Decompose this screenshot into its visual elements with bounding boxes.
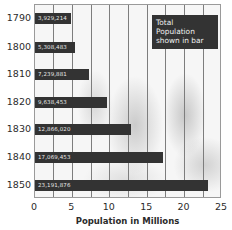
y-tick-label: 1790 [0,12,31,23]
x-tick-label: 5 [68,201,74,212]
gridline [147,5,148,197]
legend-line: Total [156,18,214,27]
bar-value-label: 9,638,453 [35,99,67,105]
legend-line: Population [156,27,214,36]
x-axis-label: Population in Millions [34,216,221,226]
bar-1830: 12,866,020 [35,124,131,135]
y-tick-label: 1830 [0,123,31,134]
bar-1810: 7,239,881 [35,69,89,80]
gridline [109,5,110,197]
x-tick-label: 15 [140,201,152,212]
bar-1840: 17,069,453 [35,152,163,163]
bar-value-label: 17,069,453 [35,154,71,160]
bar-1790: 3,929,214 [35,13,71,24]
x-tick-label: 10 [103,201,115,212]
y-tick-label: 1820 [0,96,31,107]
y-tick-label: 1840 [0,151,31,162]
bar-1800: 5,308,483 [35,42,75,53]
bar-value-label: 12,866,020 [35,126,71,132]
y-tick-label: 1810 [0,68,31,79]
bar-1850: 23,191,876 [35,180,208,191]
bar-1820: 9,638,453 [35,97,107,108]
legend-line: shown in bar [156,36,214,45]
y-tick-label: 1850 [0,179,31,190]
bar-value-label: 5,308,483 [35,44,67,50]
bar-value-label: 7,239,881 [35,71,67,77]
legend-box: Total Population shown in bar [152,15,218,49]
y-tick-label: 1800 [0,41,31,52]
x-tick-label: 25 [215,201,227,212]
bar-value-label: 3,929,214 [35,15,67,21]
x-tick-label: 20 [178,201,190,212]
x-tick-label: 0 [31,201,37,212]
gridline [128,5,129,197]
bar-value-label: 23,191,876 [35,182,71,188]
